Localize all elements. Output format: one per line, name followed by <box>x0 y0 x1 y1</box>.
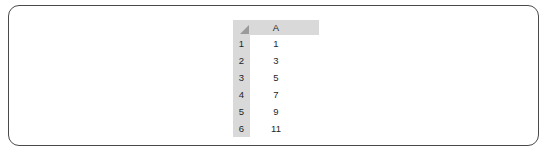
select-all-button[interactable] <box>233 20 250 35</box>
row-header-1[interactable]: 1 <box>233 35 250 52</box>
cell-a6[interactable]: 11 <box>250 120 302 137</box>
table-row[interactable]: 5 9 <box>233 103 319 120</box>
cell-a2[interactable]: 3 <box>250 52 302 69</box>
cell-a3[interactable]: 5 <box>250 69 302 86</box>
rounded-panel: A 1 1 2 3 3 5 4 7 <box>8 5 539 146</box>
cell-spacer <box>302 35 319 52</box>
cell-spacer <box>302 69 319 86</box>
row-header-2[interactable]: 2 <box>233 52 250 69</box>
cell-a1[interactable]: 1 <box>250 35 302 52</box>
cell-spacer <box>302 120 319 137</box>
cell-spacer <box>302 86 319 103</box>
table-row[interactable]: 3 5 <box>233 69 319 86</box>
column-header-row: A <box>233 20 319 35</box>
row-header-4[interactable]: 4 <box>233 86 250 103</box>
cell-a4[interactable]: 7 <box>250 86 302 103</box>
select-all-triangle-icon <box>240 25 249 34</box>
row-header-6[interactable]: 6 <box>233 120 250 137</box>
spreadsheet-grid[interactable]: A 1 1 2 3 3 5 4 7 <box>233 20 319 137</box>
table-row[interactable]: 6 11 <box>233 120 319 137</box>
table-row[interactable]: 1 1 <box>233 35 319 52</box>
column-header-spacer <box>302 20 319 35</box>
row-header-3[interactable]: 3 <box>233 69 250 86</box>
row-header-5[interactable]: 5 <box>233 103 250 120</box>
table-row[interactable]: 2 3 <box>233 52 319 69</box>
cell-spacer <box>302 52 319 69</box>
cell-a5[interactable]: 9 <box>250 103 302 120</box>
cell-spacer <box>302 103 319 120</box>
column-header-a[interactable]: A <box>250 20 302 35</box>
table-row[interactable]: 4 7 <box>233 86 319 103</box>
